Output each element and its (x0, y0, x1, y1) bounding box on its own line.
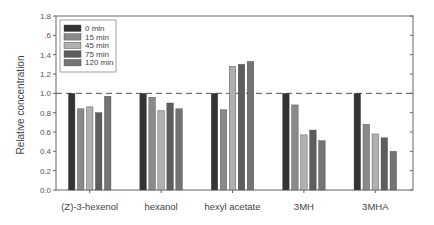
y-tick-label: 1.8 (40, 12, 52, 21)
legend-swatch (64, 34, 81, 41)
bar-3mha-75-min (381, 138, 388, 190)
bar-3mh-120-min (319, 141, 326, 190)
bar-3mh-15-min (292, 105, 299, 190)
bar-3mha-120-min (390, 151, 397, 190)
bar-hexanol-75-min (167, 103, 174, 190)
bar--z-3-hexenol-75-min (95, 113, 102, 190)
bar-3mha-0-min (354, 93, 361, 190)
y-tick-label: 0.6 (40, 128, 52, 137)
y-tick-label: 1.0 (40, 89, 52, 98)
bar-hexanol-120-min (176, 109, 183, 190)
bar--z-3-hexenol-0-min (68, 93, 75, 190)
y-tick-label: 1.2 (40, 70, 52, 79)
y-tick-label: 0.8 (40, 109, 52, 118)
bar-hexanol-15-min (149, 97, 156, 190)
x-tick-label: 3MHA (362, 201, 389, 212)
legend-swatch (64, 51, 81, 58)
bar-3mha-45-min (372, 134, 379, 190)
bar-hexyl-acetate-75-min (238, 64, 245, 190)
x-tick-label: (Z)-3-hexenol (61, 201, 118, 212)
bar-hexyl-acetate-120-min (247, 61, 254, 190)
y-tick-label: 0.2 (40, 167, 52, 176)
bar-hexyl-acetate-45-min (229, 66, 236, 190)
y-tick-label: 0.4 (40, 147, 52, 156)
y-tick-label: 1.4 (40, 51, 52, 60)
bar-chart: 0.00.20.40.60.81.01.21.4.61.8 (Z)-3-hexe… (0, 0, 434, 225)
bar-3mh-0-min (283, 93, 290, 190)
legend-swatch (64, 59, 81, 66)
bar-3mh-45-min (301, 135, 308, 190)
y-tick-label: 0.0 (40, 186, 52, 195)
legend-label: 120 min (85, 58, 113, 67)
bar-hexanol-45-min (158, 111, 165, 190)
bar-3mh-75-min (310, 130, 317, 190)
bar-hexanol-0-min (140, 93, 147, 190)
bar--z-3-hexenol-45-min (86, 107, 93, 190)
bars-group (68, 61, 396, 190)
bar-3mha-15-min (363, 124, 370, 190)
x-tick-label: hexyl acetate (205, 201, 261, 212)
x-axis: (Z)-3-hexenolhexanolhexyl acetate3MH3MHA (61, 190, 389, 212)
legend-swatch (64, 25, 81, 32)
x-tick-label: 3MH (294, 201, 314, 212)
legend-swatch (64, 42, 81, 49)
legend: 0 min15 min45 min75 min120 min (60, 20, 116, 72)
x-tick-label: hexanol (144, 201, 177, 212)
bar-hexyl-acetate-0-min (211, 93, 218, 190)
y-axis-title: Relative concentration (15, 56, 26, 155)
y-tick-label: .6 (44, 31, 51, 40)
bar--z-3-hexenol-15-min (77, 109, 84, 190)
bar--z-3-hexenol-120-min (104, 96, 111, 190)
bar-hexyl-acetate-15-min (220, 110, 227, 190)
